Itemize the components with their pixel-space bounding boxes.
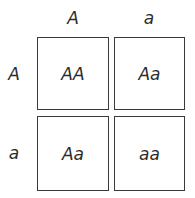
column-header-2: a bbox=[134, 8, 164, 28]
cell-r1-c1: AA bbox=[37, 37, 109, 110]
column-header-1: A bbox=[58, 8, 88, 28]
cell-r2-c1: Aa bbox=[37, 116, 109, 191]
row-header-1: A bbox=[0, 64, 29, 84]
row-header-2: a bbox=[0, 143, 29, 163]
cell-r1-c2: Aa bbox=[114, 37, 185, 110]
cell-r2-c2: aa bbox=[114, 116, 185, 191]
